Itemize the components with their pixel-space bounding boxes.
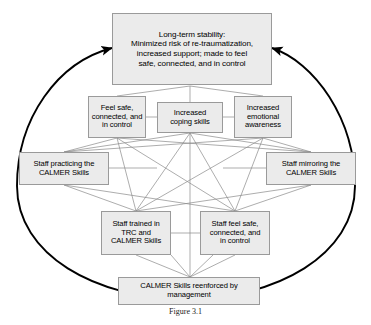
- node-staff-feel-safe-connected-in-control: Staff feel safe, connected, and in contr…: [200, 211, 270, 255]
- figure-caption: Figure 3.1: [0, 307, 371, 316]
- node-staff-trained-trc-calmer-skills: Staff trained in TRC and CALMER Skills: [101, 211, 171, 255]
- node-long-term-stability: Long-term stability: Minimized risk of r…: [112, 13, 272, 85]
- node-increased-coping-skills: Increased coping skills: [157, 102, 223, 133]
- figure-container: Long-term stability: Minimized risk of r…: [0, 0, 371, 325]
- node-staff-practicing-calmer-skills: Staff practicing the CALMER Skills: [19, 152, 109, 185]
- node-staff-mirroring-calmer-skills: Staff mirroring the CALMER Skills: [266, 152, 356, 185]
- node-feel-safe-connected-in-control: Feel safe, connected, and in control: [88, 96, 146, 138]
- node-increased-emotional-awareness: Increased emotional awareness: [234, 96, 292, 138]
- node-calmer-skills-reenforced-by-management: CALMER Skills reenforced by management: [118, 277, 260, 305]
